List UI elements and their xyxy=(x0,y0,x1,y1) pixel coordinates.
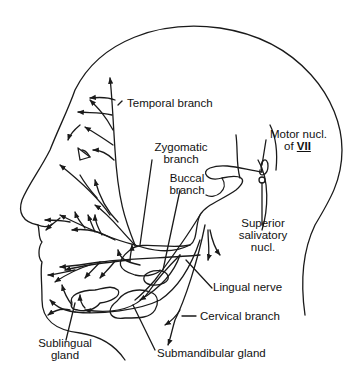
label-sublingual-gland-line2: gland xyxy=(35,349,95,361)
label-motor-nucleus-prefix: of xyxy=(284,140,297,152)
label-motor-nucleus-numeral: VII xyxy=(297,140,311,152)
facial-nerve-diagram: Temporal branch Zygomatic branch Buccal … xyxy=(0,0,356,380)
label-zygomatic-branch-line2: branch xyxy=(150,153,212,165)
label-lingual-nerve: Lingual nerve xyxy=(213,281,282,293)
label-superior-salivatory-line1: Superior xyxy=(233,217,293,229)
label-temporal-branch: Temporal branch xyxy=(127,97,213,109)
label-sublingual-gland-line1: Sublingual xyxy=(35,337,95,349)
label-motor-nucleus-line1: Motor nucl. xyxy=(270,128,327,140)
label-superior-salivatory-line3: nucl. xyxy=(233,241,293,253)
label-buccal-branch-line1: Buccal xyxy=(164,172,210,184)
label-superior-salivatory-line2: salivatory xyxy=(233,229,293,241)
label-submandibular-gland: Submandibular gland xyxy=(157,347,266,359)
label-motor-nucleus-line2: of VII xyxy=(284,140,311,152)
label-zygomatic-branch-line1: Zygomatic xyxy=(150,141,212,153)
label-cervical-branch: Cervical branch xyxy=(200,310,280,322)
label-buccal-branch-line2: branch xyxy=(164,184,210,196)
